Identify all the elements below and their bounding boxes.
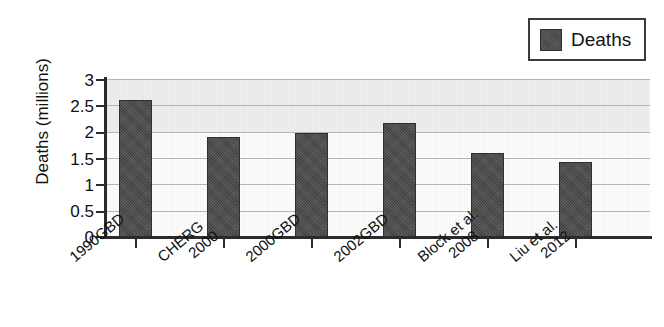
y-tick-label-3: 3	[54, 72, 94, 89]
x-tick-mark-1	[135, 238, 137, 248]
x-tick-mark-6	[575, 238, 577, 248]
legend-label-deaths: Deaths	[571, 30, 631, 49]
x-tick-mark-4	[399, 238, 401, 248]
legend-swatch-deaths	[540, 29, 562, 51]
y-tick-label-2-5: 2.5	[54, 98, 94, 115]
x-tick-mark-5	[487, 238, 489, 248]
y-tick-label-1-5: 1.5	[54, 151, 94, 168]
y-tick-label-2: 2	[54, 124, 94, 141]
gridline-1-5	[104, 158, 650, 159]
y-tick-label-0-5: 0.5	[54, 203, 94, 220]
x-tick-mark-3	[311, 238, 313, 248]
gridline-3	[104, 79, 650, 80]
x-tick-mark-2	[223, 238, 225, 248]
gridline-2	[104, 132, 650, 133]
gridline-2-5	[104, 105, 650, 106]
y-axis-tick-labels: 3 2.5 2 1.5 1 0.5 0	[48, 0, 94, 327]
chart-page: Deaths Deaths (millions) 3 2.5 2 1.5 1 0…	[0, 0, 664, 327]
y-axis-line	[104, 77, 107, 239]
chart-legend: Deaths	[528, 18, 646, 61]
y-tick-label-1: 1	[54, 177, 94, 194]
